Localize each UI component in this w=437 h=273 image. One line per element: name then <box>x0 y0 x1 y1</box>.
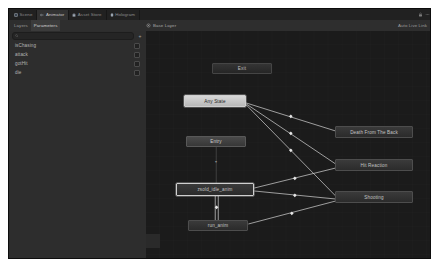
tab-hologram-label: Hologram <box>115 12 135 17</box>
state-node-idle[interactable]: zsold_idle_anim <box>176 183 254 196</box>
entry-connector-mark: ▾ <box>215 159 217 164</box>
parameter-bool-toggle[interactable] <box>134 43 140 49</box>
state-node-label: Shooting <box>364 195 383 200</box>
animator-subtabs: Layers Parameters <box>11 20 60 31</box>
tab-animator-label: Animator <box>46 12 64 17</box>
breadcrumb-base-layer[interactable]: Base Layer <box>153 23 176 28</box>
auto-live-link-label: Auto Live Link <box>398 23 427 28</box>
state-node-label: Entry <box>210 139 221 144</box>
layer-icon[interactable] <box>146 23 151 28</box>
parameter-bool-toggle[interactable] <box>134 52 140 58</box>
state-node-label: run_anim <box>208 223 228 228</box>
state-node-label: Hit Reaction <box>361 163 388 168</box>
state-node-label: zsold_idle_anim <box>197 187 232 192</box>
asset-store-icon <box>72 13 76 17</box>
screenshot-root: Scene Animator Asset Store <box>0 0 437 273</box>
lock-icon[interactable] <box>418 12 423 17</box>
subtab-layers-label: Layers <box>14 23 28 28</box>
subtab-parameters-label: Parameters <box>34 23 58 28</box>
parameter-name: die <box>15 70 21 75</box>
state-node-hit-reaction[interactable]: Hit Reaction <box>335 159 413 171</box>
list-item[interactable]: die <box>9 68 146 77</box>
tab-asset-store-label: Asset Store <box>78 12 102 17</box>
search-input[interactable] <box>12 32 134 40</box>
parameter-name: isChasing <box>15 43 36 48</box>
list-item[interactable]: gotHit <box>9 59 146 68</box>
state-node-label: Death From The Back <box>350 130 398 135</box>
parameter-search-row: + <box>9 31 146 41</box>
menu-icon[interactable] <box>425 12 430 17</box>
arrow-marker <box>293 176 297 180</box>
tab-scene[interactable]: Scene <box>11 10 37 20</box>
tab-scene-label: Scene <box>20 12 33 17</box>
parameter-list: isChasing attack gotHit die <box>9 41 146 258</box>
graph-corner-panel <box>146 234 160 248</box>
search-icon <box>15 34 19 38</box>
tab-animator[interactable]: Animator <box>37 10 69 20</box>
state-node-label: Exit <box>238 66 246 71</box>
tab-strip-controls <box>418 9 430 20</box>
animator-icon <box>40 13 44 17</box>
parameter-bool-toggle[interactable] <box>134 70 140 76</box>
state-node-any-state[interactable]: Any State <box>184 95 246 107</box>
subtab-layers[interactable]: Layers <box>11 20 31 31</box>
scene-icon <box>14 13 18 17</box>
unity-animator-window: Scene Animator Asset Store <box>8 8 431 259</box>
list-item[interactable]: isChasing <box>9 41 146 50</box>
subtab-parameters[interactable]: Parameters <box>31 20 61 31</box>
parameter-name: attack <box>15 52 28 57</box>
parameter-bool-toggle[interactable] <box>134 61 140 67</box>
tab-hologram[interactable]: Hologram <box>107 10 140 20</box>
auto-live-link-control[interactable]: Auto Live Link <box>398 20 427 31</box>
state-machine-graph[interactable]: ▾ Exit Any State Entry zsold_idle_anim r… <box>146 31 430 258</box>
arrow-marker <box>293 193 297 197</box>
state-node-label: Any State <box>204 99 225 104</box>
breadcrumb: Base Layer <box>146 20 176 31</box>
state-node-exit[interactable]: Exit <box>212 63 272 74</box>
list-item[interactable]: attack <box>9 50 146 59</box>
state-node-entry[interactable]: Entry <box>186 136 246 147</box>
add-parameter-button[interactable]: + <box>137 34 143 39</box>
parameters-panel: + isChasing attack gotHit die <box>9 31 147 258</box>
tab-asset-store[interactable]: Asset Store <box>69 10 106 20</box>
state-node-shooting[interactable]: Shooting <box>335 191 413 203</box>
hologram-icon <box>110 13 114 17</box>
state-node-run[interactable]: run_anim <box>188 220 248 231</box>
parameter-name: gotHit <box>15 61 28 66</box>
state-node-death-from-the-back[interactable]: Death From The Back <box>335 126 413 138</box>
plus-icon: + <box>139 33 142 39</box>
